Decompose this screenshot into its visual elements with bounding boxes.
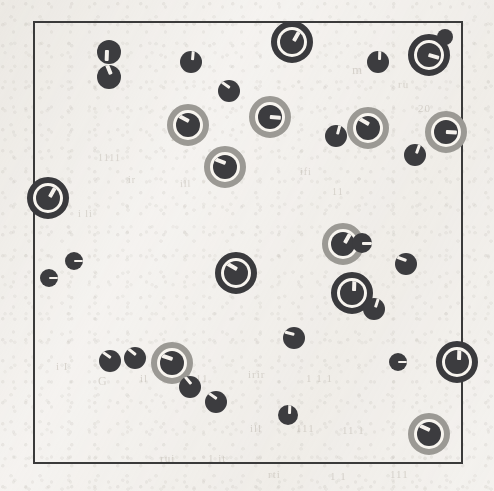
marker-wedge-icon bbox=[105, 65, 113, 75]
marker-cell[interactable] bbox=[283, 327, 305, 349]
marker-wedge-icon bbox=[446, 130, 458, 134]
marker-cell[interactable] bbox=[404, 144, 426, 166]
marker-bud[interactable] bbox=[437, 29, 453, 45]
marker-cell[interactable] bbox=[65, 252, 83, 270]
marker-body bbox=[180, 51, 202, 73]
marker-body bbox=[97, 65, 121, 89]
marker-body bbox=[445, 350, 469, 374]
marker-body bbox=[36, 186, 60, 210]
marker-body bbox=[176, 113, 200, 137]
marker-wedge-icon bbox=[343, 232, 352, 244]
marker-wedge-icon bbox=[226, 262, 238, 271]
marker-body bbox=[325, 125, 347, 147]
marker-body bbox=[367, 51, 389, 73]
marker-wedge-icon bbox=[336, 125, 342, 135]
marker-cell[interactable] bbox=[99, 350, 121, 372]
marker-wedge-icon bbox=[288, 405, 291, 414]
marker-cell[interactable] bbox=[40, 269, 58, 287]
marker-wedge-icon bbox=[220, 81, 230, 90]
marker-wedge-icon bbox=[292, 30, 301, 42]
marker-wedge-icon bbox=[419, 424, 431, 432]
plot-frame-border bbox=[33, 21, 463, 464]
marker-body bbox=[224, 261, 248, 285]
marker-body bbox=[179, 376, 201, 398]
marker-body bbox=[389, 353, 407, 371]
marker-body bbox=[417, 43, 441, 67]
marker-wedge-icon bbox=[398, 361, 407, 364]
marker-wedge-icon bbox=[207, 392, 217, 401]
marker-wedge-icon bbox=[127, 347, 137, 356]
marker-cell[interactable] bbox=[278, 405, 298, 425]
marker-body bbox=[65, 252, 83, 270]
marker-cell[interactable] bbox=[97, 40, 121, 64]
marker-wedge-icon bbox=[178, 115, 190, 124]
marker-cell[interactable] bbox=[204, 146, 246, 188]
marker-wedge-icon bbox=[49, 277, 58, 280]
marker-body bbox=[434, 120, 458, 144]
marker-cell[interactable] bbox=[408, 413, 450, 455]
marker-body bbox=[160, 351, 184, 375]
figure-root: mru2011111illirlri liifi11i IGili 11irir… bbox=[0, 0, 494, 491]
marker-wedge-icon bbox=[374, 298, 380, 308]
marker-cell[interactable] bbox=[363, 298, 385, 320]
marker-body bbox=[356, 116, 380, 140]
marker-wedge-icon bbox=[161, 354, 173, 361]
marker-wedge-icon bbox=[101, 351, 111, 360]
marker-wedge-icon bbox=[191, 51, 195, 61]
marker-wedge-icon bbox=[352, 281, 356, 291]
marker-cell[interactable] bbox=[271, 21, 313, 63]
marker-cell[interactable] bbox=[367, 51, 389, 73]
marker-body bbox=[124, 347, 146, 369]
marker-body bbox=[283, 327, 305, 349]
marker-body bbox=[218, 80, 240, 102]
marker-cell[interactable] bbox=[425, 111, 467, 153]
marker-wedge-icon bbox=[48, 186, 57, 198]
marker-body bbox=[40, 269, 58, 287]
marker-body bbox=[395, 253, 417, 275]
marker-wedge-icon bbox=[74, 260, 83, 263]
marker-body bbox=[205, 391, 227, 413]
marker-body bbox=[417, 422, 441, 446]
marker-cell[interactable] bbox=[167, 104, 209, 146]
marker-wedge-icon bbox=[270, 115, 282, 120]
marker-cell[interactable] bbox=[218, 80, 240, 102]
marker-wedge-icon bbox=[378, 51, 382, 60]
marker-cell[interactable] bbox=[352, 233, 372, 253]
marker-cell[interactable] bbox=[347, 107, 389, 149]
marker-wedge-icon bbox=[457, 350, 461, 360]
marker-wedge-icon bbox=[105, 50, 109, 62]
marker-body bbox=[99, 350, 121, 372]
marker-body bbox=[280, 30, 304, 54]
marker-cell[interactable] bbox=[205, 391, 227, 413]
showthrough-glyph: 111 bbox=[390, 468, 409, 480]
marker-body bbox=[97, 40, 121, 64]
marker-cell[interactable] bbox=[97, 65, 121, 89]
marker-cell[interactable] bbox=[325, 125, 347, 147]
showthrough-glyph: rti bbox=[268, 468, 281, 480]
marker-body bbox=[278, 405, 298, 425]
marker-cell[interactable] bbox=[179, 376, 201, 398]
marker-wedge-icon bbox=[358, 117, 370, 126]
marker-cell[interactable] bbox=[124, 347, 146, 369]
marker-wedge-icon bbox=[214, 158, 226, 165]
showthrough-glyph: 1 1 bbox=[330, 470, 347, 482]
marker-body bbox=[404, 144, 426, 166]
marker-wedge-icon bbox=[183, 376, 192, 385]
marker-cell[interactable] bbox=[389, 353, 407, 371]
marker-body bbox=[258, 105, 282, 129]
marker-cell[interactable] bbox=[215, 252, 257, 294]
marker-body bbox=[213, 155, 237, 179]
marker-wedge-icon bbox=[428, 53, 440, 60]
marker-wedge-icon bbox=[284, 330, 295, 336]
marker-cell[interactable] bbox=[436, 341, 478, 383]
marker-body bbox=[340, 281, 364, 305]
marker-cell[interactable] bbox=[180, 51, 202, 73]
marker-cell[interactable] bbox=[249, 96, 291, 138]
marker-body bbox=[352, 233, 372, 253]
marker-cell[interactable] bbox=[395, 253, 417, 275]
marker-cell[interactable] bbox=[27, 177, 69, 219]
marker-wedge-icon bbox=[396, 256, 407, 263]
marker-wedge-icon bbox=[415, 144, 422, 154]
marker-wedge-icon bbox=[362, 242, 372, 245]
marker-body bbox=[363, 298, 385, 320]
